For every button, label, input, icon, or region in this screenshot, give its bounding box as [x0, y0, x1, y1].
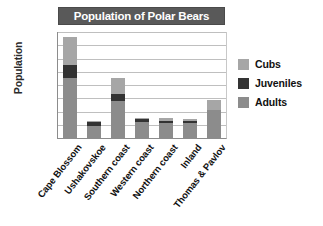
legend-item-adults[interactable]: Adults: [238, 96, 323, 108]
legend-label-juveniles: Juveniles: [255, 77, 302, 89]
bar-segment-juveniles[interactable]: [135, 119, 149, 122]
bar-segment-juveniles[interactable]: [111, 94, 125, 101]
plot-area: [57, 32, 227, 139]
bar-cape-blossom[interactable]: [63, 37, 77, 138]
chart-title-banner: Population of Polar Bears: [58, 7, 225, 25]
legend-swatch-juveniles: [238, 78, 249, 89]
legend-swatch-adults: [238, 97, 249, 108]
legend-item-cubs[interactable]: Cubs: [238, 58, 323, 70]
chart-title: Population of Polar Bears: [74, 10, 210, 22]
x-axis-category-labels: Cape BlossomUshakovskoeSouthern coastWes…: [0, 140, 323, 226]
bar-segment-cubs[interactable]: [183, 119, 197, 120]
bar-segment-juveniles[interactable]: [87, 122, 101, 126]
bar-segment-juveniles[interactable]: [183, 121, 197, 124]
y-axis-title: Population: [12, 33, 24, 103]
bar-western-coast[interactable]: [135, 118, 149, 138]
bar-thomas-pavlov[interactable]: [207, 100, 221, 138]
bar-segment-cubs[interactable]: [135, 118, 149, 119]
bar-segment-adults[interactable]: [135, 122, 149, 138]
bar-segment-cubs[interactable]: [111, 78, 125, 94]
chart-legend: CubsJuvenilesAdults: [238, 58, 323, 115]
bar-segment-juveniles[interactable]: [159, 121, 173, 124]
legend-swatch-cubs: [238, 59, 249, 70]
bars-layer: [58, 32, 226, 138]
bar-segment-adults[interactable]: [63, 78, 77, 138]
bar-segment-cubs[interactable]: [159, 118, 173, 121]
bar-northern-coast[interactable]: [159, 118, 173, 138]
bar-segment-adults[interactable]: [111, 101, 125, 138]
bar-segment-cubs[interactable]: [207, 100, 221, 111]
bar-segment-adults[interactable]: [183, 123, 197, 138]
bar-ushakovskoe[interactable]: [87, 121, 101, 138]
bar-segment-cubs[interactable]: [63, 37, 77, 65]
bar-segment-adults[interactable]: [159, 123, 173, 138]
legend-item-juveniles[interactable]: Juveniles: [238, 77, 323, 89]
bar-inland[interactable]: [183, 119, 197, 138]
legend-label-adults: Adults: [255, 96, 287, 108]
bar-segment-cubs[interactable]: [87, 121, 101, 122]
bar-segment-adults[interactable]: [87, 126, 101, 138]
bar-segment-juveniles[interactable]: [63, 65, 77, 78]
polar-bear-population-chart: Population of Polar Bears Population 010…: [0, 0, 323, 226]
bar-segment-adults[interactable]: [207, 110, 221, 138]
bar-southern-coast[interactable]: [111, 78, 125, 138]
legend-label-cubs: Cubs: [255, 58, 281, 70]
